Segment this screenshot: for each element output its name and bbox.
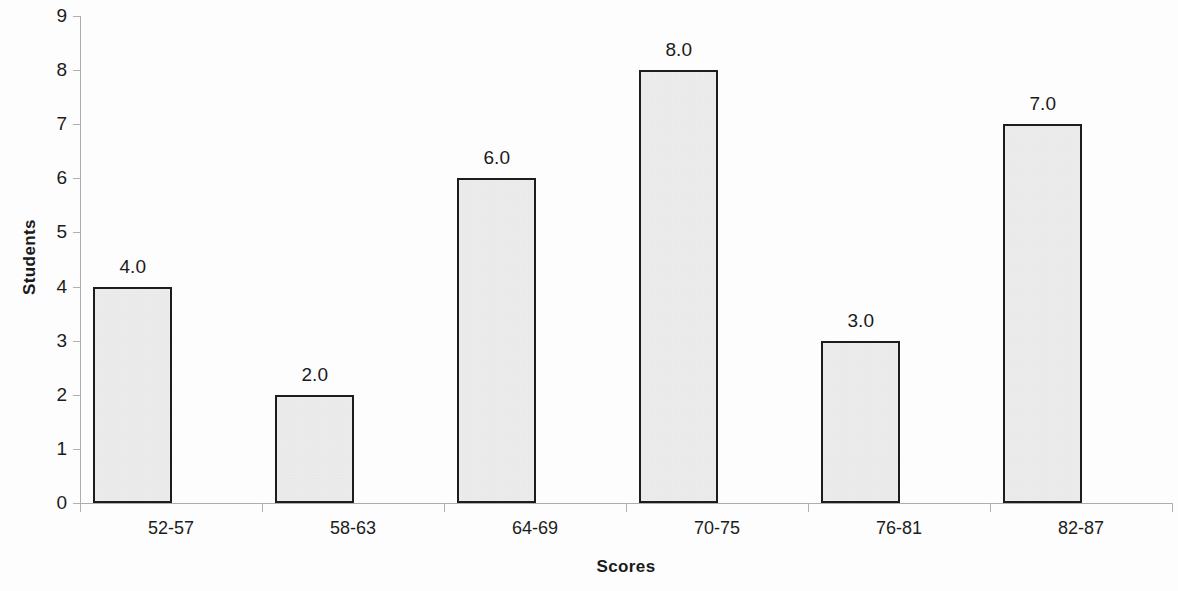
- y-axis-tick-label: 0: [56, 492, 67, 514]
- y-axis-tick-label: 2: [56, 384, 67, 406]
- y-axis-tick-label: 1: [56, 438, 67, 460]
- bar-value-label: 7.0: [1030, 93, 1056, 115]
- x-axis-tick-label: 58-63: [330, 518, 376, 539]
- y-axis-tick-label: 3: [56, 330, 67, 352]
- y-axis-tick-label: 5: [56, 221, 67, 243]
- bar-value-label: 4.0: [120, 256, 146, 278]
- y-axis-tick: [73, 341, 81, 342]
- x-axis-tick-label: 64-69: [512, 518, 558, 539]
- x-axis-tick: [626, 503, 627, 512]
- x-axis-title: Scores: [80, 557, 1172, 577]
- bar: [1003, 124, 1082, 503]
- y-axis-tick: [73, 16, 81, 17]
- y-axis-tick: [73, 287, 81, 288]
- bar-chart: Students 0123456789 4.02.06.08.03.07.0 5…: [0, 0, 1178, 591]
- x-axis-tick: [1172, 503, 1173, 512]
- y-axis-tick: [73, 449, 81, 450]
- y-axis-tick: [73, 232, 81, 233]
- x-axis-tick: [262, 503, 263, 512]
- y-axis-tick: [73, 70, 81, 71]
- bar-value-label: 3.0: [848, 310, 874, 332]
- y-axis-tick-label: 9: [56, 5, 67, 27]
- x-axis-tick-label: 76-81: [876, 518, 922, 539]
- bar-value-label: 6.0: [484, 147, 510, 169]
- y-axis-line: [80, 16, 81, 503]
- plot-area: 0123456789 4.02.06.08.03.07.0 52-5758-63…: [80, 16, 1172, 503]
- y-axis-tick: [73, 124, 81, 125]
- x-axis-tick-label: 70-75: [694, 518, 740, 539]
- bar: [93, 287, 172, 503]
- y-axis-tick-label: 8: [56, 59, 67, 81]
- bar-value-label: 2.0: [302, 364, 328, 386]
- bar: [457, 178, 536, 503]
- y-axis-title: Students: [20, 207, 40, 307]
- x-axis-tick-label: 52-57: [148, 518, 194, 539]
- x-axis-tick: [808, 503, 809, 512]
- y-axis-tick-label: 4: [56, 276, 67, 298]
- x-axis-tick: [444, 503, 445, 512]
- y-axis-tick: [73, 178, 81, 179]
- bar: [275, 395, 354, 503]
- x-axis-tick: [990, 503, 991, 512]
- y-axis-tick-label: 6: [56, 167, 67, 189]
- bar-value-label: 8.0: [666, 39, 692, 61]
- bar: [639, 70, 718, 503]
- y-axis-tick: [73, 395, 81, 396]
- x-axis-tick-label: 82-87: [1058, 518, 1104, 539]
- bar: [821, 341, 900, 503]
- x-axis-tick: [80, 503, 81, 512]
- y-axis-tick-label: 7: [56, 113, 67, 135]
